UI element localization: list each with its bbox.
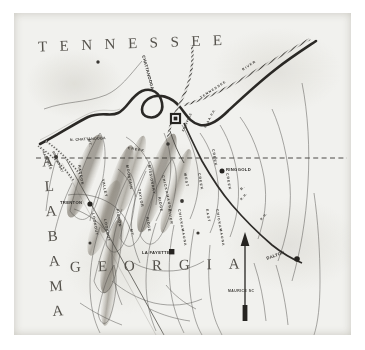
engraver-credit: MAURICE SC	[228, 290, 254, 293]
town-label-ringgold: RINGGOLD	[226, 168, 251, 172]
ridge-shading	[60, 130, 198, 326]
tennessee-river	[40, 41, 316, 144]
ridge-label-mt-2: MT.	[128, 229, 133, 237]
town-label-trenton: TRENTON	[60, 201, 82, 205]
town-label-lafayette: LA FAYETTE	[142, 251, 170, 255]
map-plate: TENNESSEE ALABAMA GEORGIA CHATTANOOGA TR…	[14, 13, 351, 335]
north-arrow-icon	[241, 232, 250, 321]
historical-map-figure: TENNESSEE ALABAMA GEORGIA CHATTANOOGA TR…	[0, 0, 365, 350]
